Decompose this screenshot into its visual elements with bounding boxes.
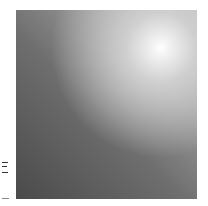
mark bbox=[2, 172, 8, 173]
gradient-square bbox=[16, 10, 197, 199]
mark bbox=[2, 198, 9, 199]
mark bbox=[2, 162, 8, 163]
edge-marks bbox=[2, 160, 10, 202]
mark bbox=[2, 166, 7, 167]
